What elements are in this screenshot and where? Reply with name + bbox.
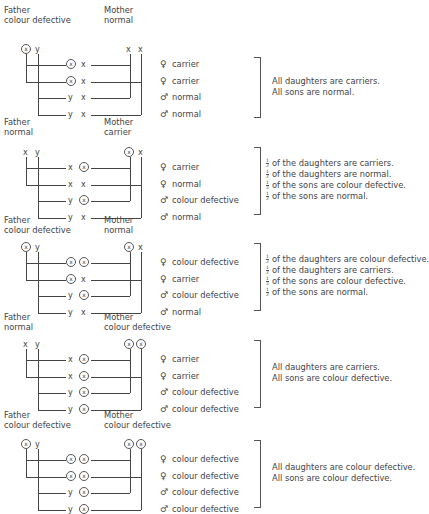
inheritance-line-mother <box>91 377 141 378</box>
offspring-result-text: colour defective <box>172 290 239 300</box>
female-symbol-icon: ♀ <box>160 257 172 267</box>
father-chromosome-y: y <box>35 440 40 449</box>
child-chromosome-paternal-x: x <box>68 355 73 364</box>
inheritance-line-father <box>26 349 27 377</box>
child-chromosome-paternal-y: y <box>68 93 73 102</box>
offspring-result-text: colour defective <box>172 454 239 464</box>
child-chromosome-maternal-affected-x: x <box>79 504 89 514</box>
inheritance-line-mother <box>91 477 141 478</box>
inheritance-line-father <box>38 449 39 510</box>
child-chromosome-maternal-x: x <box>81 308 86 317</box>
inheritance-line-father <box>38 393 66 394</box>
father-chromosome-x: x <box>23 340 28 349</box>
father-title: Father <box>4 117 30 127</box>
male-symbol-icon: ♂ <box>160 307 172 317</box>
summary-bracket <box>254 440 261 508</box>
mother-status: carrier <box>104 127 131 137</box>
mother-status: colour defective <box>104 420 171 430</box>
child-chromosome-maternal-affected-x: x <box>79 387 89 397</box>
father-title: Father <box>4 215 30 225</box>
offspring-result-text: carrier <box>172 354 199 364</box>
father-chromosome-y: y <box>35 243 40 252</box>
offspring-result: ♂colour defective <box>160 487 239 497</box>
male-symbol-icon: ♂ <box>160 109 172 119</box>
offspring-result: ♂normal <box>160 212 201 222</box>
female-symbol-icon: ♀ <box>160 162 172 172</box>
inheritance-line-mother <box>91 115 141 116</box>
female-symbol-icon: ♀ <box>160 371 172 381</box>
child-chromosome-maternal-affected-x: x <box>79 195 89 205</box>
summary-text: All daughters are colour defective. <box>272 462 415 472</box>
female-symbol-icon: ♀ <box>160 76 172 86</box>
mother-title: Mother <box>104 312 133 322</box>
inheritance-line-mother <box>91 263 130 264</box>
inheritance-line-mother <box>91 393 130 394</box>
child-chromosome-maternal-affected-x: x <box>79 404 89 414</box>
summary-line: All daughters are colour defective. <box>272 462 415 473</box>
mother-title: Mother <box>104 215 133 225</box>
child-chromosome-paternal-x: x <box>68 180 73 189</box>
father-chromosome-x: x <box>23 148 28 157</box>
inheritance-line-father <box>26 477 66 478</box>
child-chromosome-paternal-affected-x: x <box>66 76 76 86</box>
father-chromosome-y: y <box>35 45 40 54</box>
father-chromosome-y: y <box>35 340 40 349</box>
child-chromosome-maternal-affected-x: x <box>79 162 89 172</box>
inheritance-line-father <box>38 157 39 218</box>
inheritance-line-father <box>38 54 39 115</box>
female-symbol-icon: ♀ <box>160 274 172 284</box>
summary-line: 12of the sons are colour defective. <box>266 180 406 191</box>
child-chromosome-paternal-y: y <box>68 196 73 205</box>
offspring-result: ♀colour defective <box>160 257 239 267</box>
mother-chromosome-affected-x: x <box>136 439 146 449</box>
mother-chromosome-x: x <box>138 148 143 157</box>
summary-text: of the daughters are carriers. <box>272 265 394 275</box>
summary-line: 12of the sons are normal. <box>266 287 368 298</box>
child-chromosome-maternal-x: x <box>81 60 86 69</box>
fraction-one-half: 12 <box>266 181 269 191</box>
summary-bracket <box>254 147 261 215</box>
summary-text: All daughters are carriers. <box>272 362 380 372</box>
female-symbol-icon: ♀ <box>160 179 172 189</box>
father-status: normal <box>4 322 33 332</box>
offspring-result: ♀colour defective <box>160 454 239 464</box>
offspring-result: ♀carrier <box>160 354 199 364</box>
summary-text: All sons are colour defective. <box>272 373 392 383</box>
child-chromosome-maternal-affected-x: x <box>79 257 89 267</box>
offspring-result: ♂colour defective <box>160 504 239 514</box>
inheritance-line-mother <box>91 296 130 297</box>
inheritance-line-father <box>26 252 27 280</box>
summary-line: 12of the daughters are carriers. <box>266 265 394 276</box>
offspring-result-text: carrier <box>172 371 199 381</box>
father-chromosome-y: y <box>35 148 40 157</box>
inheritance-line-mother <box>130 54 131 98</box>
offspring-result: ♂colour defective <box>160 290 239 300</box>
summary-bracket <box>254 243 261 311</box>
offspring-result-text: normal <box>172 307 201 317</box>
offspring-result-text: colour defective <box>172 404 239 414</box>
offspring-result-text: colour defective <box>172 471 239 481</box>
mother-chromosome-affected-x: x <box>136 339 146 349</box>
inheritance-line-father <box>38 410 66 411</box>
inheritance-line-father <box>38 115 66 116</box>
child-chromosome-paternal-y: y <box>68 110 73 119</box>
child-chromosome-paternal-y: y <box>68 213 73 222</box>
summary-line: 12of the daughters are normal. <box>266 169 391 180</box>
offspring-result-text: carrier <box>172 76 199 86</box>
inheritance-line-father <box>38 201 66 202</box>
offspring-result: ♂normal <box>160 92 201 102</box>
mother-chromosome-x: x <box>138 243 143 252</box>
summary-text: All daughters are carriers. <box>272 76 380 86</box>
summary-line: 12of the daughters are carriers. <box>266 158 394 169</box>
inheritance-line-father <box>38 493 66 494</box>
mother-chromosome-affected-x: x <box>124 242 134 252</box>
mother-chromosome-x: x <box>138 45 143 54</box>
child-chromosome-maternal-affected-x: x <box>79 471 89 481</box>
inheritance-line-father <box>38 252 39 313</box>
male-symbol-icon: ♂ <box>160 195 172 205</box>
offspring-result-text: carrier <box>172 274 199 284</box>
child-chromosome-maternal-x: x <box>81 213 86 222</box>
inheritance-line-mother <box>91 280 141 281</box>
offspring-result: ♂colour defective <box>160 404 239 414</box>
fraction-one-half: 12 <box>266 170 269 180</box>
